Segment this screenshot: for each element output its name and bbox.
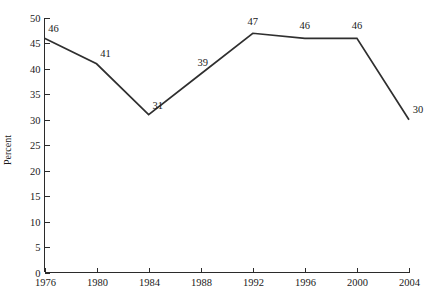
- y-tick-label-40: 40: [30, 64, 41, 75]
- y-tick-label-20: 20: [30, 166, 41, 177]
- data-label-1988: 39: [197, 57, 208, 68]
- y-tick-label-10: 10: [30, 217, 41, 228]
- x-tick-label-2000: 2000: [347, 277, 368, 288]
- x-tick-label-1996: 1996: [295, 277, 316, 288]
- x-tick-label-1988: 1988: [191, 277, 212, 288]
- y-tick-label-5: 5: [35, 242, 40, 253]
- data-label-2000: 46: [352, 20, 363, 31]
- y-tick-label-45: 45: [30, 38, 41, 49]
- y-tick-label-30: 30: [30, 115, 41, 126]
- y-tick-label-25: 25: [30, 140, 41, 151]
- y-tick-label-50: 50: [30, 13, 41, 24]
- x-tick-label-1992: 1992: [243, 277, 264, 288]
- x-tick-label-2004: 2004: [399, 277, 421, 288]
- y-tick-label-15: 15: [30, 191, 41, 202]
- x-tick-label-1984: 1984: [139, 277, 161, 288]
- chart-canvas: 05101520253035404550 Percent 19761980198…: [0, 0, 433, 302]
- data-label-2004: 30: [413, 104, 424, 115]
- data-label-1992: 47: [248, 16, 259, 27]
- y-tick-label-35: 35: [30, 89, 41, 100]
- x-tick-label-1976: 1976: [35, 277, 56, 288]
- x-tick-label-1980: 1980: [87, 277, 108, 288]
- line-chart: 05101520253035404550 Percent 19761980198…: [0, 0, 433, 302]
- data-label-1976: 46: [48, 23, 59, 34]
- chart-background: [0, 0, 433, 302]
- data-label-1984: 31: [152, 100, 163, 111]
- y-axis-title: Percent: [2, 135, 13, 165]
- data-label-1980: 41: [100, 48, 111, 59]
- data-label-1996: 46: [300, 20, 311, 31]
